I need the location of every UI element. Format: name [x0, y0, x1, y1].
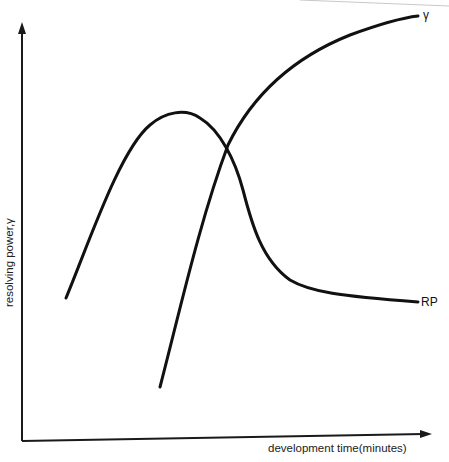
y-axis-label: resolving power,γ [3, 218, 15, 307]
y-axis [18, 22, 26, 441]
x-axis [22, 430, 432, 441]
rp-curve-label: RP [421, 296, 438, 308]
chart-canvas [0, 0, 449, 462]
x-axis-label: development time(minutes) [268, 442, 407, 454]
y-axis-arrow-icon [18, 22, 26, 34]
gamma-curve [160, 16, 418, 387]
x-axis-arrow-icon [420, 430, 432, 438]
page-edge [300, 0, 449, 6]
gamma-curve-label: γ [423, 9, 429, 21]
rp-curve [66, 112, 418, 302]
